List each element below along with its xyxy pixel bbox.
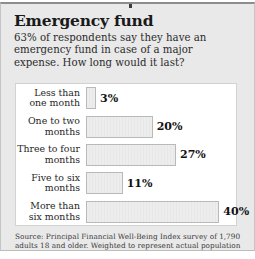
bar-category-label: Five to six months xyxy=(16,173,86,194)
bar-row: Three to four months27% xyxy=(16,141,236,169)
bar-value-label: 40% xyxy=(223,205,249,218)
bar-category-label: Three to four months xyxy=(16,144,86,165)
bar-chart: Less than one month3%One to two months20… xyxy=(16,84,236,225)
bar-track: 27% xyxy=(86,141,236,169)
bar-value-label: 3% xyxy=(100,92,118,105)
bar-value-label: 20% xyxy=(157,120,183,133)
chart-subtitle: 63% of respondents say they have an emer… xyxy=(14,32,238,69)
page-title: Emergency fund xyxy=(14,12,244,29)
bar-value-label: 27% xyxy=(180,148,206,161)
bar-track: 3% xyxy=(86,84,236,112)
bar xyxy=(86,144,176,166)
infographic-card: Emergency fund 63% of respondents say th… xyxy=(0,2,255,251)
bar-track: 40% xyxy=(86,198,249,226)
source-note: Source: Principal Financial Well-Being I… xyxy=(15,232,241,250)
top-edge-tick-mark xyxy=(129,4,132,8)
chart-panel: Less than one month3%One to two months20… xyxy=(15,83,237,226)
bar-category-label: Less than one month xyxy=(16,88,86,109)
bar-category-label: One to two months xyxy=(16,116,86,137)
bar-row: Less than one month3% xyxy=(16,84,236,112)
bar xyxy=(86,87,96,109)
bar xyxy=(86,116,153,138)
bar xyxy=(86,201,219,223)
bar-value-label: 11% xyxy=(127,177,153,190)
bar-category-label: More than six months xyxy=(16,201,86,222)
bar-track: 20% xyxy=(86,112,236,140)
bar xyxy=(86,172,123,194)
bar-row: More than six months40% xyxy=(16,198,236,226)
bar-row: Five to six months11% xyxy=(16,169,236,197)
bar-row: One to two months20% xyxy=(16,112,236,140)
bar-track: 11% xyxy=(86,169,236,197)
